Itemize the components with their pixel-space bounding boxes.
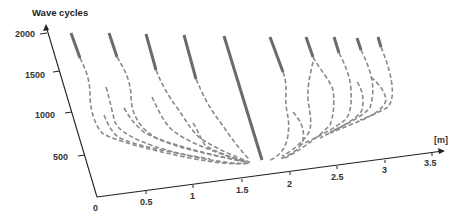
x-tick-0: 0 xyxy=(93,203,98,213)
x-tick-2: 2 xyxy=(287,179,292,189)
x-tick-1.5: 1.5 xyxy=(236,185,249,195)
x-tick-0.5: 0.5 xyxy=(140,197,153,207)
x-tick-1: 1 xyxy=(190,191,195,201)
y-axis-title: Wave cycles xyxy=(32,7,88,18)
y-tick-1000: 1000 xyxy=(35,110,55,120)
x-tick-2.5: 2.5 xyxy=(331,172,344,182)
wave-cycles-3d-chart: Wave cycles [m] 2000 1500 1000 500 0 0.5… xyxy=(0,0,460,222)
solid-profiles xyxy=(71,33,381,160)
y-tick-1500: 1500 xyxy=(25,70,45,80)
x-axis xyxy=(97,148,445,197)
dashed-profiles-left xyxy=(80,57,250,164)
x-tick-3: 3 xyxy=(382,165,387,175)
x-tick-3.5: 3.5 xyxy=(424,158,437,168)
y-tick-2000: 2000 xyxy=(15,29,35,39)
y-tick-500: 500 xyxy=(53,152,68,162)
x-axis-unit: [m] xyxy=(434,135,448,145)
dashed-profiles-right xyxy=(268,47,392,161)
